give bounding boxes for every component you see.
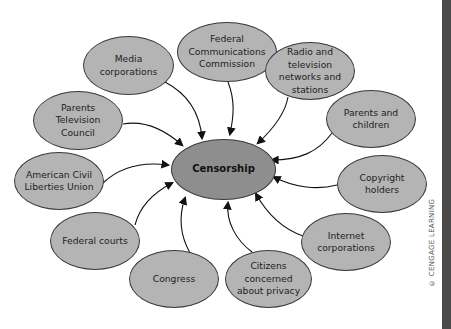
arrow-radio-tv bbox=[258, 97, 288, 143]
arrow-fcc bbox=[228, 82, 233, 134]
node-federal-courts: Federal courts bbox=[50, 212, 140, 270]
influence-diagram: Media corporations Federal Communication… bbox=[0, 0, 451, 329]
arrow-copyright bbox=[274, 177, 337, 188]
copyright-credit: © CENGAGE LEARNING bbox=[426, 188, 438, 298]
arrow-parents-children bbox=[272, 133, 332, 160]
node-radio-tv-networks: Radio and television networks and statio… bbox=[265, 42, 355, 100]
arrow-media bbox=[165, 82, 202, 138]
node-media-corporations: Media corporations bbox=[83, 36, 174, 95]
node-citizens-privacy: Citizens concerned about privacy bbox=[225, 250, 312, 308]
page-edge-bar bbox=[442, 0, 451, 329]
node-fcc: Federal Communications Commission bbox=[177, 22, 277, 82]
node-internet-corporations: Internet corporations bbox=[301, 213, 391, 271]
arrow-aclu bbox=[103, 164, 168, 183]
arrow-citizens bbox=[228, 203, 252, 252]
arrow-ptc bbox=[123, 123, 182, 145]
node-congress: Congress bbox=[129, 250, 219, 308]
arrow-federal-courts bbox=[135, 183, 172, 225]
node-aclu: American Civil Liberties Union bbox=[14, 152, 104, 210]
node-parents-and-children: Parents and children bbox=[326, 90, 416, 148]
arrow-internet bbox=[256, 194, 303, 236]
node-censorship-center: Censorship bbox=[171, 139, 276, 200]
node-copyright-holders: Copyright holders bbox=[337, 155, 427, 213]
arrow-congress bbox=[181, 198, 190, 253]
node-parents-television-council: Parents Television Council bbox=[33, 91, 123, 150]
